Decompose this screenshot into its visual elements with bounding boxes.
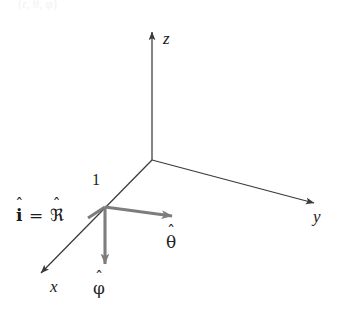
hat-accent-i: ˆ (15, 197, 24, 213)
phi-hat-symbol: ˆ φ (93, 280, 105, 297)
theta-hat-symbol: ˆ θ (166, 234, 176, 251)
z-axis-label: z (163, 30, 170, 47)
unit-tick-label: 1 (92, 172, 100, 188)
x-axis-label: x (50, 278, 58, 295)
theta-hat-vector (105, 207, 172, 216)
hat-accent-script-r: ˆ (52, 197, 61, 213)
i-hat-equals-script-r-label: ˆ i = ˆ ℜ (16, 207, 64, 224)
hat-accent-phi: ˆ (95, 270, 103, 286)
hat-accent-theta: ˆ (167, 224, 175, 240)
script-r-hat-symbol: ˆ ℜ (50, 207, 65, 224)
y-axis-line (152, 160, 314, 203)
equals-sign: = (29, 205, 44, 225)
i-hat-symbol: ˆ i (16, 207, 23, 224)
phi-hat-label: ˆ φ (93, 280, 105, 297)
figure-canvas: (r, θ, φ) z y x 1 ˆ i (0, 0, 338, 318)
theta-hat-label: ˆ θ (166, 234, 176, 251)
y-axis-label: y (313, 208, 321, 225)
